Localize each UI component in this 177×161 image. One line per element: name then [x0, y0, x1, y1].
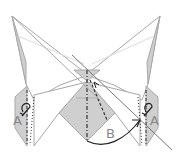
- label-a-left: A: [13, 113, 22, 128]
- left-flap-a: A: [13, 86, 34, 146]
- label-a-right: A: [150, 113, 159, 128]
- label-b: B: [106, 126, 115, 141]
- origami-diagram: A A B: [0, 0, 177, 161]
